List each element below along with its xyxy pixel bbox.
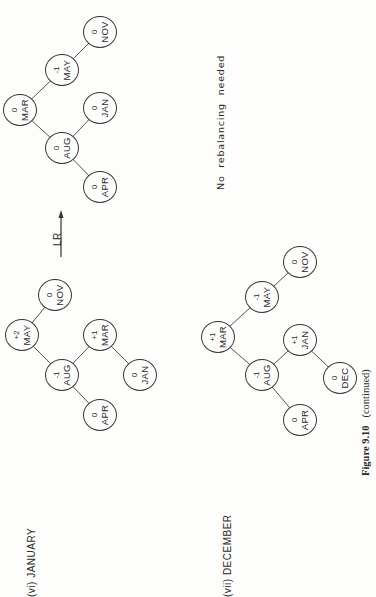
tree-node-may: -1MAY <box>45 54 79 86</box>
tree-node-may: +2MAY <box>5 319 39 351</box>
tree-node-aug: -1AUG <box>245 359 279 391</box>
figure-caption-text: (continued) <box>360 369 371 417</box>
tree-node-nov: 0NOV <box>283 246 317 278</box>
tree-node-nov: 0NOV <box>83 16 117 48</box>
tree-node-apr: 0APR <box>283 404 317 436</box>
tree-node-jan: 0JAN <box>83 92 117 124</box>
tree-node-apr: 0APR <box>83 171 117 203</box>
figure-caption: Figure 9.10 (continued) <box>360 369 371 476</box>
tree-node-jan: +1JAN <box>283 324 317 356</box>
tree-node-mar: 0MAR <box>3 94 37 126</box>
figure-page: 0MAR -1MAY 0NOV 0AUG 0JAN 0APR LR +2MAY … <box>0 0 376 597</box>
tree-node-jan: 0JAN <box>123 359 157 391</box>
tree-node-aug: 0AUG <box>45 132 79 164</box>
tree-node-mar: +1MAR <box>83 319 117 351</box>
tree-node-dec: 0DEC <box>323 362 357 394</box>
rebalancing-note: No rebalancing needed <box>215 55 226 190</box>
section-label-december: (vii) DECEMBER <box>222 514 233 597</box>
figure-number: Figure 9.10 <box>360 425 371 476</box>
tree-node-may: -1MAY <box>245 281 279 313</box>
rotation-label: LR <box>52 232 63 246</box>
tree-node-nov: 0NOV <box>38 279 72 311</box>
tree-node-mar: +1MAR <box>201 321 235 353</box>
section-label-january: (vi) JANUARY <box>26 528 37 597</box>
tree-node-aug: -1AUG <box>45 359 79 391</box>
tree-node-apr: 0APR <box>83 399 117 431</box>
